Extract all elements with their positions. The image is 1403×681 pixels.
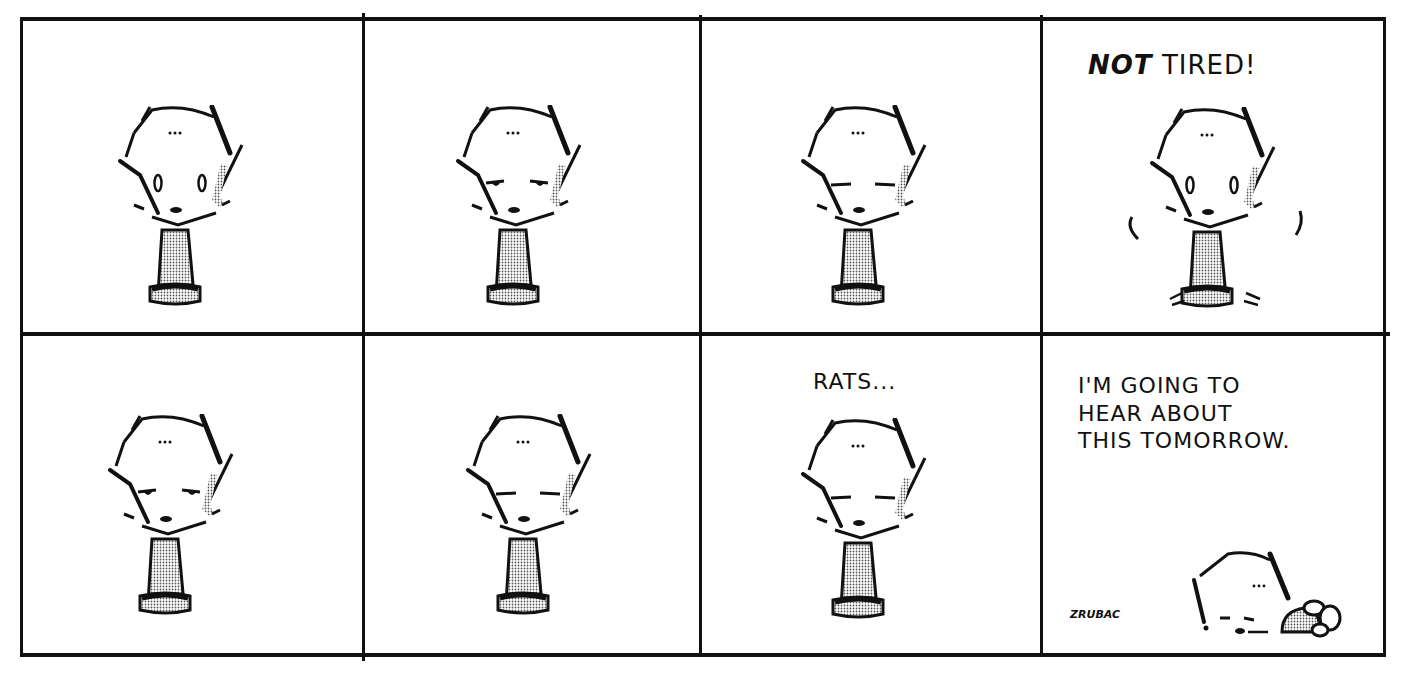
- caption-rats: RATS...: [813, 368, 896, 396]
- panel-1: [20, 17, 362, 332]
- character-eyes-closed: [460, 414, 600, 624]
- character-eyes-open: [112, 105, 252, 315]
- panel-4: NOT TIRED!: [1040, 17, 1383, 332]
- character-eyes-half-closed: [102, 414, 242, 624]
- character-jolted-awake: [1120, 107, 1320, 317]
- artist-signature: ZRUBAC: [1070, 608, 1120, 621]
- caption-line-1: I'M GOING TO: [1078, 372, 1291, 400]
- caption-line-2: HEAR ABOUT: [1078, 400, 1291, 428]
- character-eyes-closed: [795, 418, 935, 628]
- frame-bottom: [20, 653, 1386, 657]
- caption-text: TIRED!: [1162, 50, 1257, 80]
- caption-not-tired: NOT TIRED!: [1088, 49, 1256, 82]
- caption-line-3: THIS TOMORROW.: [1078, 427, 1291, 455]
- caption-hear-about-tomorrow: I'M GOING TO HEAR ABOUT THIS TOMORROW.: [1078, 372, 1291, 455]
- panel-6: [362, 336, 699, 653]
- panel-5: [20, 336, 362, 653]
- panel-8: I'M GOING TO HEAR ABOUT THIS TOMORROW. Z…: [1040, 336, 1383, 653]
- caption-bold-word: NOT: [1088, 50, 1153, 80]
- panel-3: [699, 17, 1040, 332]
- panel-2: [362, 17, 699, 332]
- comic-strip: NOT TIRED! RATS... I'M GOING TO HEAR ABO…: [20, 17, 1386, 655]
- character-eyes-half-closed: [450, 105, 590, 315]
- frame-right: [1383, 17, 1386, 657]
- panel-7: RATS...: [699, 336, 1040, 653]
- character-eyes-closed: [795, 105, 935, 315]
- character-asleep-face-down: [1170, 536, 1370, 646]
